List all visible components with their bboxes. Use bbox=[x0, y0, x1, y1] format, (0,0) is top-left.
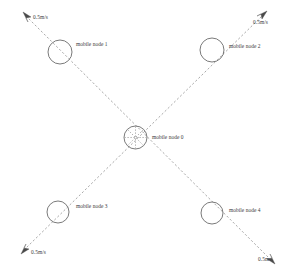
node-label-2: mobile node 2 bbox=[229, 44, 261, 49]
diagonal-line-nw-se bbox=[26, 16, 272, 261]
diagram-canvas bbox=[0, 0, 288, 274]
center-node-spokes bbox=[125, 127, 147, 149]
node-circle-1 bbox=[48, 40, 72, 64]
arrow-head-bottom-left-icon bbox=[21, 244, 29, 254]
velocity-label-bottom-right: 0.5m bbox=[258, 257, 269, 262]
velocity-label-bottom-left: 0.5m/s bbox=[31, 250, 46, 255]
arrow-head-top-right-icon bbox=[257, 11, 267, 19]
node-label-0: mobile node 0 bbox=[152, 135, 184, 140]
node-circle-2 bbox=[200, 38, 224, 62]
arrow-head-top-left-icon bbox=[23, 12, 31, 22]
node-circle-3 bbox=[47, 201, 69, 223]
velocity-label-top-right: 0.5m/s bbox=[253, 20, 268, 25]
node-label-3: mobile node 3 bbox=[76, 204, 108, 209]
velocity-label-top-left: 0.5m/s bbox=[33, 15, 48, 20]
node-label-4: mobile node 4 bbox=[229, 208, 261, 213]
mobility-diagram: mobile node 0 mobile node 1 mobile node … bbox=[0, 0, 288, 274]
node-circle-4 bbox=[201, 202, 223, 224]
node-label-1: mobile node 1 bbox=[76, 42, 108, 47]
